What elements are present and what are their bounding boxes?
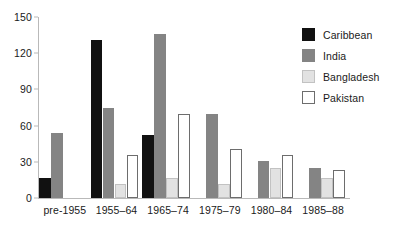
bar-bangladesh	[166, 178, 178, 199]
y-axis-tick-mark	[34, 53, 38, 54]
bar-bangladesh	[321, 178, 333, 199]
bar-group	[194, 17, 242, 198]
bangladesh-swatch	[302, 70, 315, 83]
bar-pakistan	[282, 155, 294, 198]
x-axis-tick-label: 1985–88	[297, 204, 349, 216]
bar-group	[246, 17, 294, 198]
legend-item: India	[302, 45, 408, 66]
bar-india	[309, 168, 321, 198]
y-axis-tick-label: 60	[20, 120, 32, 132]
bar-bangladesh	[270, 168, 282, 198]
bar-group	[91, 17, 139, 198]
bar-india	[258, 161, 270, 198]
bar-caribbean	[91, 40, 103, 198]
x-axis-tick-label: 1955–64	[91, 204, 143, 216]
y-axis-tick-label: 120	[14, 47, 32, 59]
bar-pakistan	[178, 114, 190, 198]
legend-item: Caribbean	[302, 24, 408, 45]
bar-india	[51, 133, 63, 198]
legend-item-label: Bangladesh	[323, 71, 379, 83]
legend-item: Pakistan	[302, 87, 408, 108]
y-axis-tick-labels: 0306090120150	[0, 0, 32, 236]
chart-legend: CaribbeanIndiaBangladeshPakistan	[302, 24, 408, 108]
x-axis-tick-label: 1965–74	[142, 204, 194, 216]
legend-item: Bangladesh	[302, 66, 408, 87]
legend-item-label: Caribbean	[323, 29, 372, 41]
x-axis-tick-label: pre-1955	[39, 204, 91, 216]
y-axis-tick-mark	[34, 125, 38, 126]
bar-bangladesh	[218, 184, 230, 198]
pakistan-swatch	[302, 91, 315, 104]
bar-pakistan	[127, 155, 139, 198]
legend-item-label: Pakistan	[323, 92, 364, 104]
india-swatch	[302, 49, 315, 62]
bar-pakistan	[230, 149, 242, 198]
bar-caribbean	[142, 135, 154, 198]
y-axis-tick-label: 150	[14, 11, 32, 23]
bar-bangladesh	[115, 184, 127, 198]
bar-india	[154, 34, 166, 198]
y-axis-tick-mark	[34, 17, 38, 18]
y-axis-tick-mark	[34, 198, 38, 199]
y-axis-tick-mark	[34, 161, 38, 162]
bar-group	[142, 17, 190, 198]
bar-chart: 0306090120150 pre-19551955–641965–741975…	[0, 0, 411, 236]
bar-pakistan	[333, 170, 345, 198]
y-axis-tick-label: 90	[20, 83, 32, 95]
bar-india	[103, 108, 115, 199]
y-axis-tick-mark	[34, 89, 38, 90]
x-axis-tick-label: 1975–79	[194, 204, 246, 216]
bar-caribbean	[39, 178, 51, 199]
legend-item-label: India	[323, 50, 346, 62]
x-axis-line	[38, 198, 350, 199]
bar-group	[39, 17, 87, 198]
bar-india	[206, 114, 218, 198]
y-axis-tick-label: 0	[26, 192, 32, 204]
y-axis-tick-label: 30	[20, 156, 32, 168]
x-axis-tick-label: 1980–84	[246, 204, 298, 216]
caribbean-swatch	[302, 28, 315, 41]
